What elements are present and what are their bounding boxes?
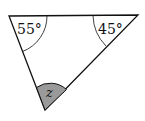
angle-45-label: 45° [98,21,123,37]
angle-55-label: 55° [17,21,42,37]
triangle-diagram: 55° 45° z [0,0,145,121]
angle-z-label: z [45,85,53,100]
